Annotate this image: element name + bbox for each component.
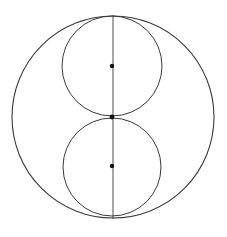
center-point-bottom <box>110 164 114 168</box>
geometry-diagram <box>0 0 227 237</box>
tangent-point-middle <box>110 115 115 120</box>
center-point-top <box>110 64 114 68</box>
diagram-svg <box>0 0 227 237</box>
